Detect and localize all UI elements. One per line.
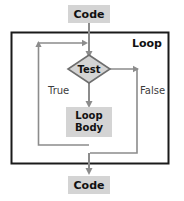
loop-container-label: Loop: [132, 37, 162, 50]
node-code-top-label: Code: [74, 8, 105, 21]
node-test-label: Test: [77, 64, 100, 75]
edge-body-to-test-arrowhead: [82, 40, 88, 46]
node-code-bottom-label: Code: [74, 179, 105, 192]
edge-label-false: False: [140, 85, 165, 96]
node-loop-body-label-line2: Body: [75, 122, 104, 133]
edge-test-to-exit-arrowhead-right: [133, 66, 139, 72]
node-loop-body-label-line1: Loop: [75, 110, 102, 121]
edge-test-to-body-arrowhead: [86, 101, 93, 108]
edge-exit-to-code-arrowhead: [86, 168, 93, 175]
edge-body-to-test-riser-arrowhead: [35, 41, 41, 47]
diagram-canvas: Code Test Loop Body Code True False Loop: [0, 0, 184, 201]
edge-label-true: True: [47, 85, 69, 96]
flowchart-diagram: Code Test Loop Body Code True False Loop: [0, 0, 184, 201]
